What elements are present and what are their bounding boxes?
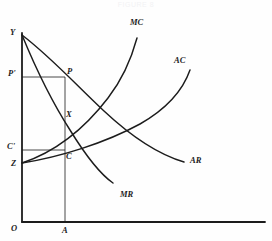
- point-label-y: Y: [10, 28, 15, 37]
- curve-label-mc: MC: [130, 18, 143, 27]
- point-label-c: C: [66, 152, 72, 161]
- point-label-o: O: [11, 224, 17, 233]
- point-label-pprime: P': [8, 69, 16, 78]
- guide-lines-group: [22, 77, 65, 222]
- point-label-p: P: [67, 67, 72, 76]
- curve-ar: [22, 35, 184, 162]
- economics-diagram: FIGURE 8 MCACARMRYPP'XCC'ZAO: [0, 0, 272, 241]
- axes-group: [22, 33, 265, 222]
- curve-ac: [22, 70, 190, 163]
- curve-label-mr: MR: [120, 190, 133, 199]
- point-label-z: Z: [11, 159, 16, 168]
- point-label-x: X: [66, 110, 72, 119]
- point-label-cprime: C': [7, 142, 15, 151]
- point-label-a: A: [62, 226, 68, 235]
- diagram-canvas: [0, 0, 272, 241]
- curve-label-ac: AC: [174, 56, 185, 65]
- curves-group: [22, 35, 190, 183]
- curve-label-ar: AR: [190, 156, 201, 165]
